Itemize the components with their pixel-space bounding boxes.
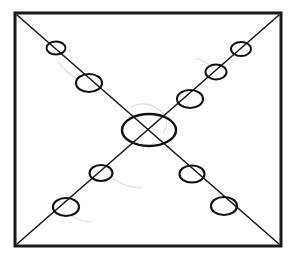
diagram-canvas [0,0,294,260]
diagram-figure [0,0,294,260]
